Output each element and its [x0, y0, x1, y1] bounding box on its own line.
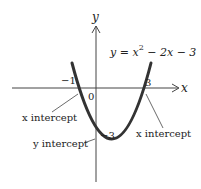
x-intercept-left-label: x intercept: [22, 112, 77, 123]
parabola-diagram: y x 0 y = x2 − 2x − 3 −1 3 −3 x intercep…: [0, 0, 201, 189]
origin-label: 0: [88, 91, 94, 102]
x-intercept-left-leader: [52, 94, 78, 112]
tick-label-neg-one: −1: [61, 75, 76, 86]
equation-label: y = x2 − 2x − 3: [109, 43, 196, 59]
y-axis-label: y: [91, 10, 99, 24]
x-axis-label: x: [181, 81, 188, 95]
tick-label-neg-three: −3: [100, 130, 115, 141]
x-intercept-right-leader: [146, 94, 163, 128]
tick-label-three: 3: [145, 77, 151, 88]
y-intercept-label: y intercept: [32, 138, 88, 149]
x-intercept-right-label: x intercept: [136, 128, 191, 139]
